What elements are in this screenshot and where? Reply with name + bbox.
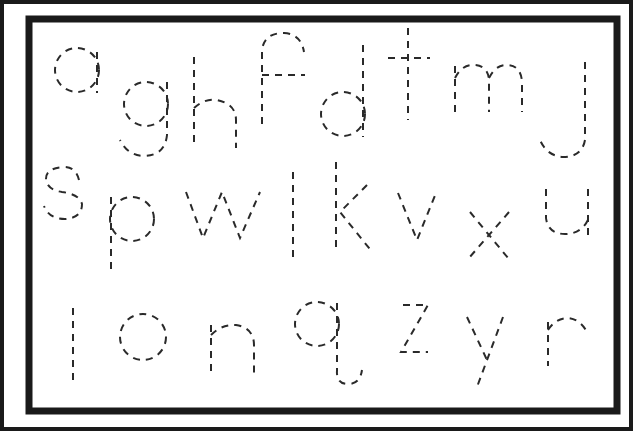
letter-s	[44, 167, 82, 219]
letter-r	[548, 318, 587, 366]
letter-t	[388, 28, 430, 120]
worksheet-canvas	[0, 0, 634, 431]
letter-f	[262, 33, 305, 124]
tracing-worksheet: Lowercase letter tracing worksheet	[0, 0, 634, 431]
letter-a	[55, 48, 99, 93]
letter-q	[295, 302, 362, 384]
inner-frame	[29, 19, 617, 411]
letter-y	[467, 317, 503, 387]
letter-z	[401, 305, 428, 352]
letter-n	[211, 325, 254, 373]
letter-k	[336, 162, 373, 253]
letter-d	[321, 45, 365, 137]
letter-h	[194, 57, 236, 148]
letter-u	[546, 189, 588, 238]
letter-v	[398, 193, 436, 240]
letter-p	[110, 197, 154, 270]
letter-j	[540, 62, 585, 157]
letter-w	[186, 192, 260, 238]
letter-g	[120, 82, 168, 156]
letter-m	[455, 65, 522, 112]
letter-o	[120, 314, 166, 360]
letter-x	[469, 212, 509, 258]
